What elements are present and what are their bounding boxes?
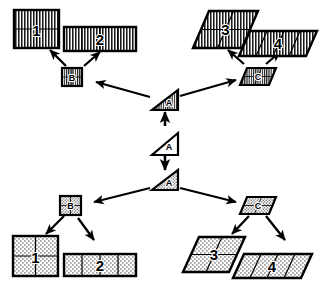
edge-btop-square1: [50, 50, 66, 66]
shape-label-rect2-top: 2: [96, 31, 104, 48]
node-label-b-bot: B: [67, 201, 74, 211]
node-b-bot: B: [60, 196, 81, 215]
edge-cbot-para4: [266, 216, 285, 240]
shape-rect-2-hatch: 2: [64, 27, 136, 51]
edge-atop-btop: [96, 82, 150, 97]
node-label-c-top: C: [255, 72, 262, 82]
diagram-canvas: 1 2 3 4 B C: [0, 0, 327, 285]
shape-label-para4-top: 4: [274, 35, 283, 52]
shape-label-para4-bot: 4: [268, 258, 277, 275]
node-a-bot: A: [152, 170, 178, 190]
shape-label-square1-top: 1: [32, 22, 40, 39]
node-c-bot: C: [240, 197, 276, 214]
shape-rect-2-stipple: 2: [64, 254, 136, 276]
edge-atop-ctop: [180, 80, 236, 96]
edge-bbot-rect2: [78, 218, 94, 240]
shape-parallelogram-4-stipple: 4: [233, 254, 312, 278]
node-label-c-bot: C: [255, 201, 262, 211]
edge-abot-bbot: [94, 188, 150, 202]
node-a-mid: A: [152, 133, 178, 155]
edge-btop-rect2: [84, 52, 100, 66]
shape-label-para3-bot: 3: [210, 246, 218, 263]
node-c-top: C: [240, 68, 276, 85]
shape-parallelogram-3-stipple: 3: [183, 237, 245, 272]
shape-parallelogram-4-hatch: 4: [239, 31, 317, 56]
shape-label-square1-bot: 1: [31, 249, 39, 266]
node-b-top: B: [62, 68, 82, 86]
shape-label-rect2-bot: 2: [96, 257, 104, 274]
shape-transformation-diagram: 1 2 3 4 B C: [0, 0, 327, 285]
edge-cbot-para3: [232, 216, 249, 234]
shape-square-1-hatch: 1: [14, 10, 59, 48]
shape-square-1-stipple: 1: [13, 236, 58, 276]
node-label-a-bot: A: [166, 178, 173, 188]
node-label-b-top: B: [69, 73, 76, 83]
edge-bbot-square1: [46, 216, 64, 234]
node-a-top: A: [152, 90, 178, 110]
node-label-a-top: A: [166, 98, 173, 108]
node-label-a-mid: A: [166, 142, 173, 152]
edge-abot-cbot: [180, 188, 236, 202]
shape-label-para3-top: 3: [221, 21, 229, 38]
